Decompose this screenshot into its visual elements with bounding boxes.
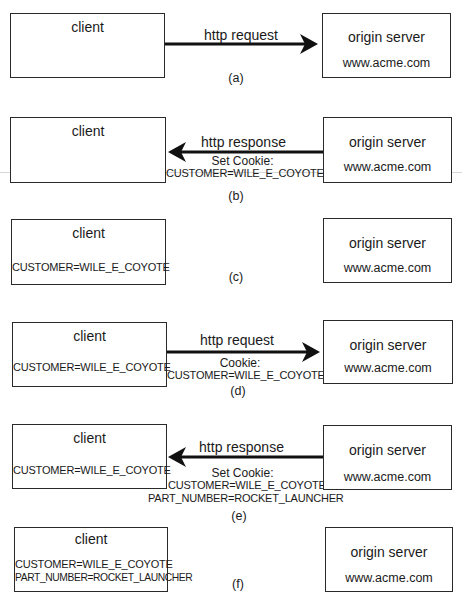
arrow-label: http request xyxy=(196,332,278,348)
panel-caption: (b) xyxy=(226,189,246,203)
server-title: origin server xyxy=(323,29,450,45)
client-title: client xyxy=(11,19,164,35)
client-title: client xyxy=(13,328,166,344)
server-host: www.acme.com xyxy=(324,160,451,174)
client-box: client xyxy=(10,117,166,183)
client-box: client CUSTOMER=WILE_E_COYOTE xyxy=(12,424,167,489)
server-box: origin server www.acme.com xyxy=(323,117,452,183)
panel-caption: (d) xyxy=(228,384,248,398)
client-title: client xyxy=(11,123,165,139)
client-box: client xyxy=(10,13,165,78)
panel-caption: (e) xyxy=(229,509,249,523)
client-title: client xyxy=(15,531,167,547)
server-title: origin server xyxy=(324,235,451,251)
server-host: www.acme.com xyxy=(323,56,450,70)
arrow-sublabel: CUSTOMER=WILE_E_COYOTE xyxy=(168,479,320,491)
client-cookie: CUSTOMER=WILE_E_COYOTE xyxy=(13,361,166,373)
client-title: client xyxy=(13,430,166,446)
arrow-label: http response xyxy=(196,134,291,150)
client-cookie: CUSTOMER=WILE_E_COYOTE xyxy=(15,558,167,570)
arrow-sublabel: Cookie: xyxy=(210,356,270,370)
client-title: client xyxy=(12,225,165,241)
panel-caption: (a) xyxy=(226,71,246,85)
server-box: origin server www.acme.com xyxy=(323,218,452,283)
arrow-sublabel: CUSTOMER=WILE_E_COYOTE xyxy=(167,369,319,381)
server-title: origin server xyxy=(324,442,451,458)
server-host: www.acme.com xyxy=(324,261,451,275)
arrow-sublabel: CUSTOMER=WILE_E_COYOTE xyxy=(166,167,318,179)
server-title: origin server xyxy=(324,134,451,150)
client-box: client CUSTOMER=WILE_E_COYOTE xyxy=(11,219,166,285)
server-title: origin server xyxy=(324,337,452,353)
arrow-sublabel: Set Cookie: xyxy=(200,154,285,168)
server-box: origin server www.acme.com xyxy=(322,13,451,78)
client-cookie: CUSTOMER=WILE_E_COYOTE xyxy=(12,261,165,273)
server-box: origin server www.acme.com xyxy=(325,527,453,592)
panel-caption: (f) xyxy=(228,577,248,591)
arrow-sublabel: Set Cookie: xyxy=(200,466,285,480)
arrow-label: http response xyxy=(194,439,289,455)
server-title: origin server xyxy=(326,544,452,560)
server-host: www.acme.com xyxy=(324,361,452,375)
client-box: client CUSTOMER=WILE_E_COYOTE xyxy=(12,322,167,387)
server-host: www.acme.com xyxy=(326,571,452,585)
arrow-sublabel: PART_NUMBER=ROCKET_LAUNCHER xyxy=(148,492,340,504)
server-box: origin server www.acme.com xyxy=(323,425,452,490)
arrow-label: http request xyxy=(200,27,282,43)
server-host: www.acme.com xyxy=(324,470,451,484)
server-box: origin server www.acme.com xyxy=(323,320,453,384)
client-cookie: CUSTOMER=WILE_E_COYOTE xyxy=(13,464,166,476)
client-box: client CUSTOMER=WILE_E_COYOTE PART_NUMBE… xyxy=(14,527,168,592)
client-cookie: PART_NUMBER=ROCKET_LAUNCHER xyxy=(15,572,167,583)
panel-caption: (c) xyxy=(226,270,246,284)
